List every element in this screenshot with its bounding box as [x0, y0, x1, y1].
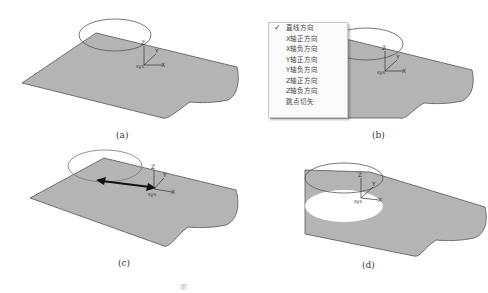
- menu-item-x-negative[interactable]: X轴负方向: [269, 44, 347, 55]
- panel-label-c: (c): [118, 258, 130, 268]
- axis-origin-label: sys: [148, 191, 157, 198]
- menu-item-x-positive[interactable]: X轴正方向: [269, 34, 347, 45]
- axis-z-label: Z: [358, 171, 362, 178]
- panel-label-b: (b): [372, 130, 385, 140]
- surface-drawing-a: Z Y X sys: [0, 0, 240, 150]
- direction-context-menu: ✓ 直线方向 X轴正方向 X轴负方向 Y轴正方向 Y轴负方向 Z轴正方向 Z轴负…: [268, 22, 348, 118]
- menu-item-z-positive[interactable]: Z轴正方向: [269, 76, 347, 87]
- panel-label-d: (d): [362, 260, 375, 270]
- menu-item-label: Y轴负方向: [286, 66, 318, 74]
- axis-x-label: X: [161, 61, 165, 68]
- menu-item-label: X轴正方向: [286, 35, 318, 43]
- checkmark-icon: ✓: [274, 23, 281, 34]
- panel-a: Z Y X sys (a): [0, 0, 240, 150]
- menu-item-label: Z轴负方向: [286, 87, 318, 95]
- panel-c: Z Y X sys (c): [0, 150, 240, 280]
- axis-y-label: Y: [154, 47, 159, 54]
- axis-origin-label: sys: [354, 198, 363, 205]
- surface-sheet: [22, 33, 238, 118]
- menu-item-label: 直线方向: [286, 24, 314, 32]
- axis-origin-label: sys: [377, 69, 386, 76]
- axis-origin-label: sys: [136, 63, 145, 70]
- axis-z-label: Z: [151, 163, 155, 170]
- axis-x-label: X: [378, 196, 382, 203]
- menu-item-z-negative[interactable]: Z轴负方向: [269, 86, 347, 97]
- surface-sheet: [30, 158, 238, 246]
- trimmed-hole: [305, 190, 383, 222]
- axis-x-label: X: [402, 67, 406, 74]
- axis-x-label: X: [171, 188, 175, 195]
- menu-item-jump-tangent[interactable]: 跳点切矢: [269, 97, 347, 108]
- panel-label-a: (a): [116, 130, 128, 140]
- figure-caption: 图: [180, 282, 310, 290]
- axis-y-label: Y: [371, 180, 376, 187]
- menu-item-label: 跳点切矢: [286, 98, 314, 106]
- menu-item-line-direction[interactable]: ✓ 直线方向: [269, 23, 347, 34]
- menu-item-y-negative[interactable]: Y轴负方向: [269, 65, 347, 76]
- axis-y-label: Y: [162, 171, 167, 178]
- menu-item-label: X轴负方向: [286, 45, 318, 53]
- panel-d: Z Y X sys (d): [240, 150, 488, 280]
- menu-item-y-positive[interactable]: Y轴正方向: [269, 55, 347, 66]
- menu-item-label: Z轴正方向: [286, 77, 318, 85]
- axis-z-label: Z: [141, 39, 145, 46]
- axis-y-label: Y: [395, 53, 400, 60]
- axis-z-label: Z: [382, 44, 386, 51]
- menu-item-label: Y轴正方向: [286, 56, 318, 64]
